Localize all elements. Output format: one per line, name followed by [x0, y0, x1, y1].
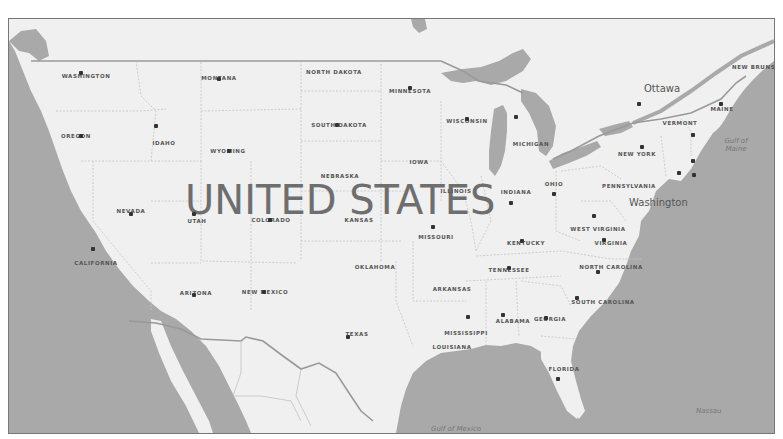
state-label: ILLINOIS	[440, 188, 471, 194]
city-marker[interactable]	[520, 239, 524, 243]
city-marker[interactable]	[602, 238, 606, 242]
state-label: ARIZONA	[180, 290, 212, 296]
city-marker[interactable]	[677, 171, 681, 175]
state-label: NORTH CAROLINA	[579, 264, 643, 270]
land-mass	[9, 19, 774, 433]
capital-label: Washington	[629, 197, 688, 208]
state-label: SOUTH DAKOTA	[311, 122, 367, 128]
state-label: OKLAHOMA	[355, 264, 396, 270]
state-label: IDAHO	[152, 140, 175, 146]
state-label: VIRGINIA	[595, 240, 628, 246]
state-label: LOUISIANA	[432, 344, 471, 350]
state-label: KENTUCKY	[507, 240, 545, 246]
city-marker[interactable]	[129, 212, 133, 216]
state-label: UTAH	[187, 218, 206, 224]
map-viewport[interactable]: UNITED STATES WASHINGTONMONTANANORTH DAK…	[8, 18, 775, 434]
state-label: NORTH DAKOTA	[306, 69, 362, 75]
city-marker[interactable]	[268, 218, 272, 222]
city-marker[interactable]	[335, 123, 339, 127]
state-label: MISSISSIPPI	[444, 330, 488, 336]
city-marker[interactable]	[431, 225, 435, 229]
state-label: ALABAMA	[496, 318, 530, 324]
city-marker[interactable]	[575, 296, 579, 300]
state-label: IOWA	[409, 159, 428, 165]
country-label-united-states: UNITED STATES	[185, 177, 495, 223]
state-label: OHIO	[545, 181, 563, 187]
state-label: FLORIDA	[548, 366, 579, 372]
water-label: Gulf of Mexico	[431, 425, 481, 433]
city-marker[interactable]	[192, 293, 196, 297]
city-marker[interactable]	[514, 115, 518, 119]
city-marker[interactable]	[227, 149, 231, 153]
state-label: PENNSYLVANIA	[602, 183, 656, 189]
city-marker[interactable]	[637, 102, 641, 106]
map-basemap	[9, 19, 774, 433]
city-marker[interactable]	[501, 313, 505, 317]
state-label: WEST VIRGINIA	[570, 226, 625, 232]
state-label: WASHINGTON	[62, 73, 111, 79]
state-label: GEORGIA	[534, 316, 566, 322]
city-marker[interactable]	[465, 117, 469, 121]
state-label: NEW BRUNSWICK	[732, 64, 775, 70]
city-marker[interactable]	[640, 145, 644, 149]
state-label: MAINE	[710, 106, 733, 112]
state-label: ARKANSAS	[433, 286, 472, 292]
city-marker[interactable]	[592, 214, 596, 218]
city-marker[interactable]	[408, 86, 412, 90]
city-marker[interactable]	[552, 192, 556, 196]
state-label: INDIANA	[501, 189, 532, 195]
city-marker[interactable]	[509, 201, 513, 205]
state-label: SOUTH CAROLINA	[571, 299, 634, 305]
city-marker[interactable]	[79, 71, 83, 75]
state-label: OREGON	[61, 133, 91, 139]
state-label: VERMONT	[663, 120, 698, 126]
city-marker[interactable]	[692, 173, 696, 177]
water-label: Nassau	[696, 407, 722, 415]
state-label: NEBRASKA	[321, 173, 359, 179]
city-marker[interactable]	[91, 247, 95, 251]
city-marker[interactable]	[79, 134, 83, 138]
city-marker[interactable]	[192, 212, 196, 216]
city-marker[interactable]	[556, 377, 560, 381]
city-marker[interactable]	[719, 102, 723, 106]
city-marker[interactable]	[466, 315, 470, 319]
state-label: MICHIGAN	[513, 141, 549, 147]
florida-peninsula	[541, 351, 581, 419]
city-marker[interactable]	[691, 133, 695, 137]
state-label: KANSAS	[345, 217, 374, 223]
capital-label: Ottawa	[644, 83, 680, 94]
city-marker[interactable]	[596, 270, 600, 274]
state-label: CALIFORNIA	[74, 260, 117, 266]
city-marker[interactable]	[262, 290, 266, 294]
state-label: NEW YORK	[618, 151, 656, 157]
city-marker[interactable]	[691, 159, 695, 163]
state-label: MISSOURI	[418, 234, 453, 240]
city-marker[interactable]	[544, 316, 548, 320]
city-marker[interactable]	[217, 77, 221, 81]
city-marker[interactable]	[507, 266, 511, 270]
city-marker[interactable]	[346, 335, 350, 339]
city-marker[interactable]	[154, 124, 158, 128]
water-label: Gulf of Maine	[721, 137, 751, 153]
